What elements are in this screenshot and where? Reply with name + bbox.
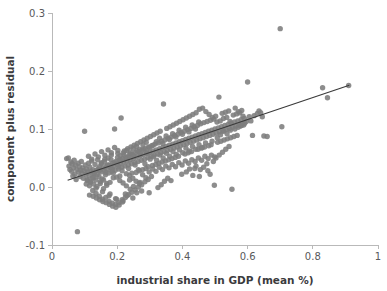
data-point [228,127,233,132]
data-point [115,148,120,153]
data-point [134,190,139,195]
data-point [92,162,97,167]
data-point [193,163,198,168]
data-point [167,154,172,159]
data-point [96,154,101,159]
regression-line [68,85,350,180]
data-point [118,115,123,120]
data-point [89,156,94,161]
data-point [213,114,218,119]
data-point [212,183,217,188]
data-point [110,166,115,171]
data-point [112,126,117,131]
data-point [101,177,106,182]
data-point [126,166,131,171]
data-point [250,133,255,138]
x-tick-label: 0.8 [305,251,321,262]
data-point [193,126,198,131]
data-point [279,124,284,129]
data-point [84,181,89,186]
data-point [113,196,118,201]
data-point [160,155,165,160]
data-point [124,193,129,198]
data-point [207,172,212,177]
data-point [106,193,111,198]
data-point [137,180,142,185]
data-point [204,161,209,166]
data-point [239,108,244,113]
y-axis-title: component plus residual [4,56,16,202]
data-point [154,158,159,163]
plot-canvas: 00.20.40.60.81-0.10.00.10.20.3 industria… [0,0,387,291]
data-point [174,152,179,157]
data-point [187,166,192,171]
data-point [320,85,325,90]
data-point [168,178,173,183]
data-point [145,164,150,169]
data-point [103,170,108,175]
data-point [90,194,95,199]
data-point [193,147,198,152]
data-point [206,143,211,148]
data-point [183,125,188,130]
data-point [211,159,216,164]
data-point [144,140,149,145]
data-point [161,101,166,106]
data-point [136,167,141,172]
data-points-group [64,26,351,234]
data-point [119,168,124,173]
data-point [120,199,125,204]
data-point [229,187,234,192]
regression-line-group [68,85,350,180]
y-tick-label: 0.2 [29,66,45,77]
data-point [160,141,165,146]
data-point [146,190,151,195]
data-point [129,170,134,175]
data-point [158,129,163,134]
data-point [109,150,114,155]
x-tick-label: 1 [375,251,381,262]
data-point [143,175,148,180]
x-tick-label: 0.4 [174,251,190,262]
data-point [149,174,154,179]
y-tick-label: 0.0 [29,182,45,193]
data-point [107,180,112,185]
data-point [234,133,239,138]
data-point [155,185,160,190]
data-point [93,185,98,190]
data-point [186,129,191,134]
x-tick-label: 0 [49,251,55,262]
data-point [180,132,185,137]
data-point [278,26,283,31]
data-point [196,119,201,124]
data-point [180,150,185,155]
data-point [131,184,136,189]
y-tick-label: -0.1 [25,240,45,251]
data-point [173,134,178,139]
x-tick-label: 0.6 [240,251,256,262]
data-point [325,95,330,100]
data-point [130,195,135,200]
data-point [209,138,214,143]
data-point [200,145,205,150]
data-point [197,174,202,179]
data-point [147,145,152,150]
data-point [187,148,192,153]
data-point [226,108,231,113]
data-point [179,172,184,177]
data-point [245,79,250,84]
data-point [167,137,172,142]
x-tick-label: 0.2 [109,251,125,262]
y-tick-label: 0.3 [29,8,45,19]
x-axis-title: industrial share in GDP (mean %) [116,274,313,286]
data-point [216,94,221,99]
data-point [264,134,269,139]
data-point [82,129,87,134]
data-point [132,162,137,167]
data-point [157,136,162,141]
data-point [75,229,80,234]
scatter-plot-figure: 00.20.40.60.81-0.10.00.10.20.3 industria… [0,0,387,291]
data-point [226,144,231,149]
data-point [190,173,195,178]
data-point [102,152,107,157]
